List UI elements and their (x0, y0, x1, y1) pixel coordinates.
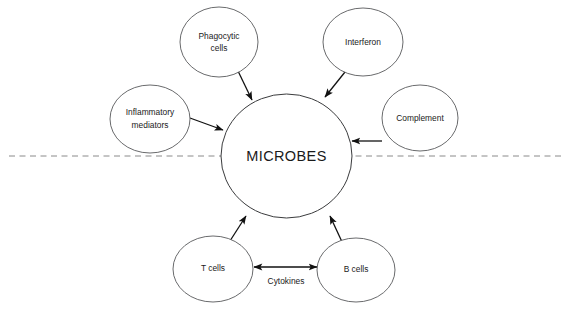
complement-label-line1: Complement (396, 113, 444, 123)
node-interferon[interactable]: Interferon (323, 8, 403, 76)
node-t-cells[interactable]: T cells (173, 236, 253, 302)
arrow-bcells-to-microbes (330, 216, 343, 244)
node-inflammatory-mediators[interactable]: Inflammatory mediators (110, 85, 190, 153)
b-cells-label-line1: B cells (344, 264, 369, 274)
node-microbes[interactable]: MICROBES (221, 94, 352, 218)
inflammatory-mediators-circle (110, 85, 190, 153)
phagocytic-cells-label-line1: Phagocytic (199, 31, 240, 41)
microbes-label: MICROBES (246, 148, 327, 164)
arrow-phagocytic-to-microbes (238, 71, 252, 100)
t-cells-label-line1: T cells (201, 263, 225, 273)
cytokines-edge-label: Cytokines (268, 276, 305, 286)
diagram-canvas: MICROBES Phagocytic cells Interferon Inf… (0, 0, 569, 311)
node-phagocytic-cells[interactable]: Phagocytic cells (180, 7, 258, 77)
phagocytic-cells-circle (180, 7, 258, 77)
node-complement[interactable]: Complement (382, 85, 458, 151)
arrow-inflammatory-to-microbes (190, 118, 223, 130)
diagram-svg: MICROBES Phagocytic cells Interferon Inf… (0, 0, 569, 311)
inflammatory-mediators-label-line1: Inflammatory (126, 107, 175, 117)
phagocytic-cells-label-line2: cells (211, 43, 228, 53)
inflammatory-mediators-label-line2: mediators (132, 120, 169, 130)
interferon-label-line1: Interferon (345, 37, 381, 47)
arrow-interferon-to-microbes (325, 72, 345, 97)
node-b-cells[interactable]: B cells (317, 238, 395, 302)
